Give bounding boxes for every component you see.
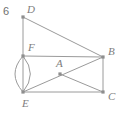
vertex-point-c [101, 90, 104, 93]
figure-number-text: 6 [3, 5, 9, 17]
vertex-point-e [21, 90, 24, 93]
vertex-label-a: A [55, 57, 63, 69]
vertex-label-b: B [108, 45, 115, 57]
arc-lens-left [15, 56, 23, 92]
vertex-label-c: C [108, 90, 116, 102]
vertex-point-f [21, 54, 24, 57]
segment-fb [23, 56, 103, 57]
geometry-figure: DFEBCA6 6 [0, 0, 117, 118]
vertex-point-a [58, 72, 61, 75]
vertex-point-d [21, 15, 24, 18]
figure-canvas: DFEBCA6 [0, 0, 117, 118]
vertex-label-d: D [26, 3, 35, 15]
vertex-label-e: E [21, 97, 29, 109]
segment-ac [60, 74, 103, 92]
vertex-point-b [101, 55, 104, 58]
segment-db [23, 17, 103, 57]
vertex-label-f: F [27, 41, 35, 53]
arc-lens-right [23, 56, 30, 92]
